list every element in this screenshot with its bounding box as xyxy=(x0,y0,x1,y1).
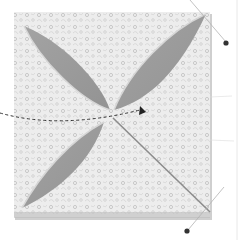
quilt-illustration xyxy=(0,0,241,240)
pin-head-bottom-icon xyxy=(184,228,189,233)
pin-head-top-icon xyxy=(223,40,228,45)
fabric-bottom-edge xyxy=(14,212,210,218)
quilt-square-figure xyxy=(0,0,241,240)
